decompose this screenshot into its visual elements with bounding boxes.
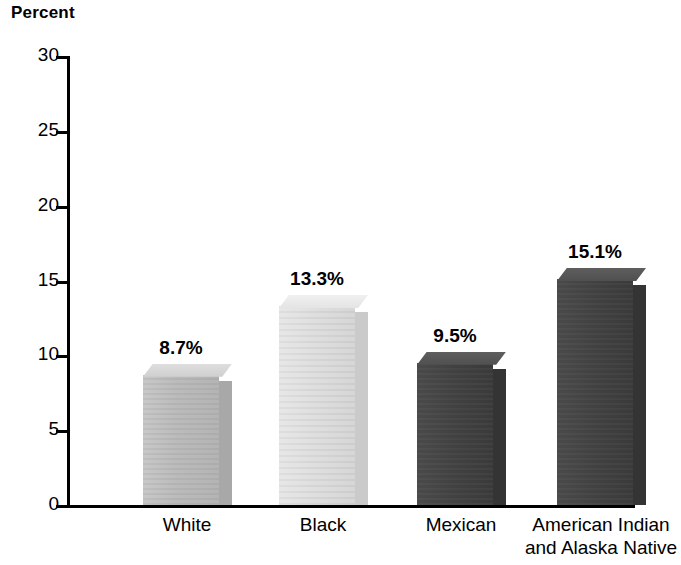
plot-area: 051015202530 8.7%13.3%9.5%15.1% WhiteBla…	[67, 56, 635, 505]
value-label-4: 15.1%	[535, 242, 655, 262]
bar-front-face	[279, 306, 355, 505]
value-label-1: 8.7%	[121, 338, 241, 358]
x-axis-line	[67, 505, 635, 508]
y-tick-label: 5	[48, 419, 59, 438]
bar-top-face	[417, 352, 506, 365]
y-tick-label: 15	[38, 270, 59, 289]
y-tick-label: 25	[38, 120, 59, 139]
bar-front-face	[557, 279, 633, 505]
y-axis-title: Percent	[11, 3, 75, 23]
bar-4	[557, 279, 633, 505]
bar-front-face	[417, 363, 493, 505]
bar-3	[417, 363, 493, 505]
value-label-2: 13.3%	[257, 269, 377, 289]
bar-front-face	[143, 375, 219, 505]
x-axis-label-4: American Indian and Alaska Native	[511, 513, 681, 559]
bar-top-face	[143, 364, 232, 377]
value-label-3: 9.5%	[395, 326, 515, 346]
bar-1	[143, 375, 219, 505]
bar-top-face	[557, 268, 646, 281]
y-tick-label: 0	[48, 494, 59, 513]
y-tick-label: 30	[38, 45, 59, 64]
bar-side-face	[355, 312, 368, 505]
bar-side-face	[493, 369, 506, 505]
bar-2	[279, 306, 355, 505]
bar-side-face	[633, 285, 646, 505]
bar-top-face	[279, 295, 368, 308]
y-tick-label: 10	[38, 344, 59, 363]
y-tick-label: 20	[38, 195, 59, 214]
bar-side-face	[219, 381, 232, 505]
